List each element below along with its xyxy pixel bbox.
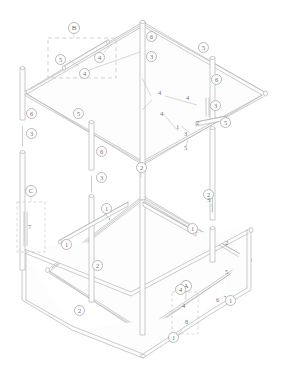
callout-circled: 3 bbox=[210, 100, 221, 111]
callout-circled: 1 bbox=[225, 295, 236, 306]
callout-circled: 4 bbox=[94, 52, 105, 63]
callout-circled: 6 bbox=[211, 74, 222, 85]
callout-circled: 2 bbox=[136, 162, 147, 173]
callout-circled: 6 bbox=[96, 146, 107, 157]
callout-circled: 2 bbox=[74, 305, 85, 316]
technical-drawing-figure: .ln { fill:none; stroke:#b5b5b5; stroke-… bbox=[0, 0, 286, 368]
callout-circled: 1 bbox=[187, 223, 198, 234]
callout-circled: 2 bbox=[92, 260, 103, 271]
callout-circled: 2 bbox=[203, 189, 214, 200]
callout-circled: 6 bbox=[146, 31, 157, 42]
callout-circled: 3 bbox=[96, 172, 107, 183]
callout-circled: 3 bbox=[146, 51, 157, 62]
detail-boxes bbox=[0, 0, 286, 368]
callout-circled: 4 bbox=[79, 68, 90, 79]
callout-circled: 3 bbox=[26, 128, 37, 139]
detail-tag-B: B bbox=[68, 22, 80, 34]
callout-circled: 5 bbox=[220, 117, 231, 128]
callout-circled: 6 bbox=[26, 108, 37, 119]
callout-circled: 1 bbox=[101, 203, 112, 214]
callout-circled: 5 bbox=[73, 108, 84, 119]
callout-circled: 5 bbox=[198, 42, 209, 53]
callout-circled: 1 bbox=[168, 332, 179, 343]
callout-circled: 4 bbox=[175, 284, 186, 295]
callout-circled: 1 bbox=[61, 239, 72, 250]
detail-tag-C: C bbox=[25, 185, 37, 197]
callout-circled: 5 bbox=[55, 54, 66, 65]
